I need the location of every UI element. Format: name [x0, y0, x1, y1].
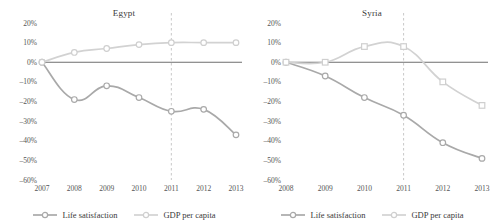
data-point-marker [479, 156, 485, 162]
data-point-marker [401, 44, 407, 50]
data-point-marker [72, 50, 78, 56]
legend-marker-gdp-per-capita [133, 210, 159, 220]
legend-marker-gdp-per-capita [381, 210, 407, 220]
legend-marker-life-satisfaction [280, 210, 306, 220]
plot-area-egypt: 20%10%0%–10%–20%–30%–40%–50%–60%20072008… [0, 18, 248, 186]
legend-item-gdp-per-capita: GDP per capita [381, 210, 463, 220]
data-point-marker [283, 59, 289, 65]
y-axis-tick-label: –30% [19, 117, 38, 126]
chart-svg-syria: 20%10%0%–10%–20%–30%–40%–50%–60%20082009… [248, 18, 496, 186]
x-axis-tick-label: 2013 [475, 184, 490, 193]
y-axis-tick-label: –40% [263, 136, 282, 145]
y-axis-tick-label: –10% [19, 77, 38, 86]
data-point-marker [136, 42, 142, 48]
y-axis-tick-label: –20% [19, 97, 38, 106]
series-line [286, 42, 482, 105]
data-point-marker [169, 109, 175, 115]
x-axis-tick-label: 2009 [99, 184, 114, 193]
chart-page: Egypt 20%10%0%–10%–20%–30%–40%–50%–60%20… [0, 0, 496, 224]
plot-area-syria: 20%10%0%–10%–20%–30%–40%–50%–60%20082009… [248, 18, 496, 186]
y-axis-tick-label: –30% [263, 117, 282, 126]
data-point-marker [479, 103, 485, 109]
data-point-marker [440, 140, 446, 146]
x-axis-tick-label: 2010 [132, 184, 147, 193]
data-point-marker [362, 95, 368, 101]
y-axis-tick-label: –40% [19, 136, 38, 145]
chart-svg-egypt: 20%10%0%–10%–20%–30%–40%–50%–60%20072008… [0, 18, 248, 186]
data-point-marker [136, 95, 142, 101]
y-axis-tick-label: 10% [23, 38, 37, 47]
data-point-marker [201, 107, 207, 113]
x-axis-tick-label: 2008 [279, 184, 294, 193]
legend-label-gdp-per-capita: GDP per capita [411, 210, 463, 220]
y-axis-tick-label: 10% [267, 38, 281, 47]
x-axis-tick-label: 2013 [229, 184, 244, 193]
data-point-marker [104, 46, 110, 52]
data-point-marker [169, 40, 175, 46]
x-axis-tick-label: 2012 [196, 184, 211, 193]
data-point-marker [440, 79, 446, 85]
x-axis-tick-label: 2012 [435, 184, 450, 193]
data-point-marker [362, 44, 368, 50]
y-axis-tick-label: –10% [263, 77, 282, 86]
legend-marker-life-satisfaction [32, 210, 58, 220]
x-axis-tick-label: 2011 [164, 184, 179, 193]
legend-label-life-satisfaction: Life satisfaction [310, 210, 365, 220]
data-point-marker [233, 132, 239, 138]
y-axis-tick-label: –20% [263, 97, 282, 106]
chart-title-syria: Syria [248, 8, 496, 18]
y-axis-tick-label: 0% [27, 58, 37, 67]
data-point-marker [322, 73, 328, 79]
x-axis-tick-label: 2007 [35, 184, 50, 193]
x-axis-tick-label: 2009 [318, 184, 333, 193]
legend-item-life-satisfaction: Life satisfaction [32, 210, 117, 220]
legend-egypt: Life satisfaction GDP per capita [0, 210, 248, 220]
data-point-marker [201, 40, 207, 46]
x-axis-tick-label: 2008 [67, 184, 82, 193]
data-point-marker [401, 112, 407, 118]
legend-item-life-satisfaction: Life satisfaction [280, 210, 365, 220]
data-point-marker [322, 59, 328, 65]
chart-panel-syria: Syria 20%10%0%–10%–20%–30%–40%–50%–60%20… [248, 0, 496, 224]
y-axis-tick-label: 0% [271, 58, 281, 67]
data-point-marker [233, 40, 239, 46]
series-line [286, 62, 482, 158]
data-point-marker [104, 83, 110, 89]
legend-label-gdp-per-capita: GDP per capita [163, 210, 215, 220]
y-axis-tick-label: –50% [19, 156, 38, 165]
legend-syria: Life satisfaction GDP per capita [248, 210, 496, 220]
x-axis-tick-label: 2010 [357, 184, 372, 193]
data-point-marker [39, 59, 45, 65]
chart-title-egypt: Egypt [0, 8, 248, 18]
y-axis-tick-label: –50% [263, 156, 282, 165]
y-axis-tick-label: 20% [267, 19, 281, 28]
chart-panel-egypt: Egypt 20%10%0%–10%–20%–30%–40%–50%–60%20… [0, 0, 248, 224]
x-axis-tick-label: 2011 [396, 184, 411, 193]
data-point-marker [72, 97, 78, 103]
y-axis-tick-label: 20% [23, 19, 37, 28]
legend-item-gdp-per-capita: GDP per capita [133, 210, 215, 220]
legend-label-life-satisfaction: Life satisfaction [62, 210, 117, 220]
